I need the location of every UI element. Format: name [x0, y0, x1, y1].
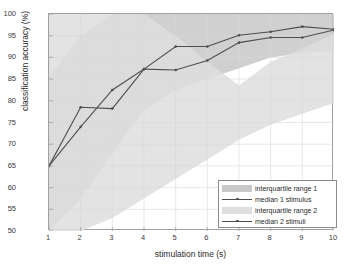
- y-tick-label: 95: [8, 30, 16, 39]
- data-point-marker: [174, 69, 177, 72]
- y-tick-label: 100: [3, 9, 16, 18]
- data-point-marker: [301, 25, 304, 28]
- legend-entry-label: median 2 stimuli: [255, 216, 306, 227]
- legend-patch-icon: [222, 185, 252, 192]
- data-point-marker: [238, 34, 241, 37]
- legend-entry[interactable]: median 1 stimulus: [219, 194, 336, 205]
- y-axis-label: classification accuracy (%): [20, 0, 30, 141]
- x-tick-label: 1: [46, 233, 50, 242]
- legend-entry[interactable]: interquartile range 2: [219, 205, 336, 216]
- x-tick-label: 6: [204, 233, 208, 242]
- legend-entry[interactable]: interquartile range 1: [219, 183, 336, 194]
- data-point-marker: [174, 45, 177, 48]
- y-tick-label: 55: [8, 204, 16, 213]
- legend-line-swatch: [219, 194, 255, 205]
- data-point-marker: [206, 59, 209, 62]
- legend-box[interactable]: interquartile range 1median 1 stimulusin…: [218, 180, 337, 228]
- legend-entry-label: interquartile range 1: [255, 183, 317, 194]
- legend-patch-swatch: [219, 183, 255, 194]
- data-point-marker: [206, 45, 209, 48]
- y-tick-label: 60: [8, 182, 16, 191]
- data-point-marker: [269, 30, 272, 33]
- y-tick-label: 50: [8, 226, 16, 235]
- y-tick-label: 70: [8, 139, 16, 148]
- y-tick-label: 65: [8, 160, 16, 169]
- x-tick-label: 3: [109, 233, 113, 242]
- figure-container: 50556065707580859095100 12345678910 stim…: [0, 0, 352, 275]
- legend-entry-label: median 1 stimulus: [255, 194, 311, 205]
- x-tick-label: 7: [236, 233, 240, 242]
- legend-marker-icon: [236, 198, 239, 201]
- data-point-marker: [111, 107, 114, 110]
- data-point-marker: [301, 36, 304, 39]
- legend-marker-icon: [236, 220, 239, 223]
- y-tick-label: 75: [8, 117, 16, 126]
- y-tick-label: 85: [8, 74, 16, 83]
- x-tick-label: 10: [329, 233, 337, 242]
- data-point-marker: [269, 36, 272, 39]
- x-tick-label: 9: [299, 233, 303, 242]
- x-tick-label: 5: [173, 233, 177, 242]
- x-tick-label: 8: [268, 233, 272, 242]
- y-tick-label: 80: [8, 95, 16, 104]
- legend-entry-label: interquartile range 2: [255, 205, 317, 216]
- x-tick-label: 2: [78, 233, 82, 242]
- x-axis-label: stimulation time (s): [48, 249, 333, 259]
- x-tick-label: 4: [141, 233, 145, 242]
- legend-patch-icon: [222, 207, 252, 214]
- data-point-marker: [79, 106, 82, 109]
- legend-patch-swatch: [219, 205, 255, 216]
- data-point-marker: [143, 68, 146, 71]
- y-tick-label: 90: [8, 52, 16, 61]
- data-point-marker: [238, 41, 241, 44]
- legend-line-swatch: [219, 216, 255, 227]
- data-point-marker: [79, 126, 82, 129]
- data-point-marker: [111, 89, 114, 92]
- legend-entry[interactable]: median 2 stimuli: [219, 216, 336, 227]
